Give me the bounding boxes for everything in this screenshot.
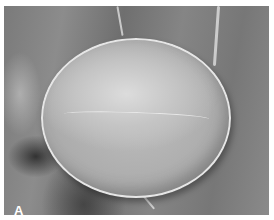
- panel-label: A: [14, 204, 23, 215]
- background-fiber: [116, 6, 123, 36]
- background-fiber: [213, 6, 220, 66]
- sem-micrograph: A: [4, 6, 269, 215]
